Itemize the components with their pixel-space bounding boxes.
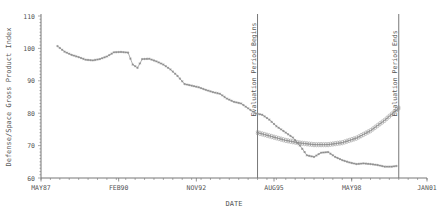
x-tick-label: FEB90: [109, 184, 129, 192]
x-tick-label: MAY87: [31, 184, 51, 192]
annotations: Evaluation Period BeginsEvaluation Perio…: [250, 14, 399, 178]
y-axis-label: Defense/Space Gross Product Index: [5, 27, 13, 166]
evaluation-period-label: Evaluation Period Ends: [391, 30, 399, 116]
line-chart: 60708090100110MAY87FEB90NOV92AUG95MAY98J…: [0, 0, 446, 214]
x-tick-label: JAN01: [417, 184, 437, 192]
series-forecast: [256, 106, 400, 147]
y-tick-label: 60: [27, 175, 35, 183]
y-tick-label: 80: [27, 110, 35, 118]
series-actual: [56, 45, 397, 168]
x-tick-label: NOV92: [187, 184, 207, 192]
series: [56, 45, 400, 168]
y-tick-label: 70: [27, 142, 35, 150]
evaluation-period-label: Evaluation Period Begins: [250, 22, 258, 116]
y-tick-label: 110: [23, 13, 35, 21]
x-tick-label: MAY98: [342, 184, 362, 192]
y-tick-label: 90: [27, 77, 35, 85]
x-tick-label: AUG95: [264, 184, 284, 192]
x-axis-label: DATE: [226, 200, 243, 208]
y-tick-label: 100: [23, 45, 35, 53]
